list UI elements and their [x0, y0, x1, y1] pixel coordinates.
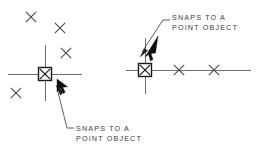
callout-top-line1: SNAPS TO A — [172, 13, 226, 22]
callout-bottom: SNAPS TO A POINT OBJECT — [56, 85, 142, 143]
figure-canvas: SNAPS TO A POINT OBJECT SNAPS TO A POINT… — [0, 0, 261, 156]
right-scene — [126, 36, 251, 94]
callout-bottom-leader — [58, 92, 74, 128]
callout-top-line2: POINT OBJECT — [172, 23, 238, 32]
callout-bottom-line2: POINT OBJECT — [76, 134, 142, 143]
left-scene — [8, 12, 82, 101]
point-object-mark — [61, 48, 71, 58]
point-object-mark — [11, 88, 21, 98]
point-object-mark — [55, 23, 65, 33]
callout-bottom-line1: SNAPS TO A — [76, 124, 130, 133]
snap-marker-point-right — [139, 64, 152, 77]
point-object-mark — [26, 12, 36, 22]
mouse-pointer-right — [145, 36, 158, 61]
snap-marker-point-left — [39, 68, 52, 81]
